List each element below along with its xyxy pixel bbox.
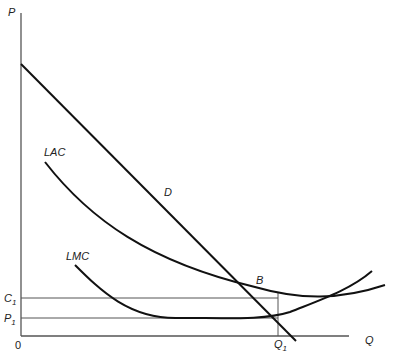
demand-curve xyxy=(21,64,296,341)
lmc-label: LMC xyxy=(66,250,89,262)
y-axis-label: P xyxy=(8,6,16,18)
x-axis-label: Q xyxy=(365,334,374,346)
lac-curve xyxy=(45,162,385,297)
demand-label: D xyxy=(164,186,172,198)
point-b-label: B xyxy=(256,274,263,286)
lac-label: LAC xyxy=(44,146,65,158)
c1-label: C1 xyxy=(4,292,16,307)
p1-label: P1 xyxy=(4,312,16,327)
q1-label: Q1 xyxy=(274,338,287,353)
economics-diagram: P Q 0 D LAC LMC B C1 P1 Q1 xyxy=(0,0,400,357)
origin-label: 0 xyxy=(15,339,21,351)
lmc-curve xyxy=(75,265,372,318)
